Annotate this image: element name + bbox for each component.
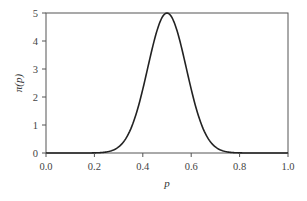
y-tick-label: 5 xyxy=(33,8,38,19)
x-tick-label: 1.0 xyxy=(281,161,294,172)
x-tick-label: 0.0 xyxy=(39,161,52,172)
y-tick-label: 4 xyxy=(33,36,39,47)
x-axis-label: p xyxy=(163,177,170,189)
x-tick-label: 0.2 xyxy=(88,161,101,172)
y-axis-ticks: 012345 xyxy=(33,8,46,159)
y-tick-label: 1 xyxy=(33,120,38,131)
y-tick-label: 0 xyxy=(33,148,38,159)
plot-axes xyxy=(46,13,288,153)
x-tick-label: 0.6 xyxy=(185,161,198,172)
density-chart: 0.00.20.40.60.81.0 012345 p π(p) xyxy=(0,0,307,201)
x-tick-label: 0.4 xyxy=(136,161,150,172)
y-tick-label: 2 xyxy=(33,92,38,103)
y-tick-label: 3 xyxy=(33,64,38,75)
x-axis-ticks: 0.00.20.40.60.81.0 xyxy=(39,153,294,172)
y-axis-label: π(p) xyxy=(12,73,25,92)
plot-frame xyxy=(46,13,288,153)
x-tick-label: 0.8 xyxy=(233,161,246,172)
density-curve xyxy=(46,13,288,153)
